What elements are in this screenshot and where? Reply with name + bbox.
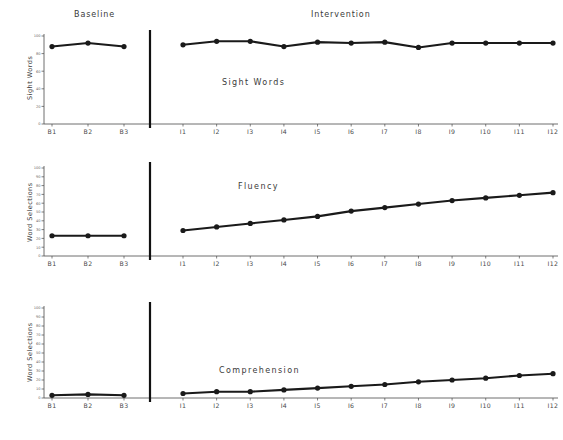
- svg-text:I11: I11: [514, 128, 525, 135]
- data-point: [49, 393, 54, 398]
- svg-text:I4: I4: [281, 260, 288, 267]
- data-point: [449, 198, 454, 203]
- y-axis-title-comprehension: Word Selections: [26, 322, 34, 382]
- data-point: [248, 221, 253, 226]
- data-point: [349, 209, 354, 214]
- data-point: [416, 45, 421, 50]
- data-point: [349, 384, 354, 389]
- svg-text:I2: I2: [213, 260, 220, 267]
- svg-text:40: 40: [36, 219, 41, 223]
- data-point: [416, 379, 421, 384]
- svg-text:I11: I11: [514, 260, 525, 267]
- svg-text:0: 0: [38, 396, 41, 400]
- svg-text:0: 0: [38, 254, 41, 258]
- data-point: [180, 391, 185, 396]
- data-point: [248, 39, 253, 44]
- data-point: [382, 382, 387, 387]
- data-point: [49, 233, 54, 238]
- svg-text:20: 20: [36, 378, 41, 382]
- data-point: [214, 39, 219, 44]
- data-point: [550, 190, 555, 195]
- svg-text:60: 60: [36, 202, 41, 206]
- svg-text:80: 80: [36, 324, 41, 328]
- svg-text:30: 30: [36, 369, 41, 373]
- svg-text:60: 60: [36, 342, 41, 346]
- svg-text:70: 70: [36, 333, 41, 337]
- data-point: [180, 42, 185, 47]
- svg-text:I12: I12: [548, 260, 559, 267]
- svg-text:90: 90: [36, 315, 41, 319]
- svg-text:I10: I10: [480, 128, 491, 135]
- chart-fluency: 0102030405060708090100B1B2B3I1I2I3I4I5I6…: [0, 160, 563, 275]
- data-point: [248, 389, 253, 394]
- svg-text:I6: I6: [348, 402, 355, 409]
- y-axis-title-sight-words: Sight Words: [26, 56, 34, 100]
- data-point: [281, 44, 286, 49]
- svg-text:B3: B3: [120, 128, 129, 135]
- svg-text:I5: I5: [314, 260, 321, 267]
- svg-text:I10: I10: [480, 260, 491, 267]
- data-point: [85, 233, 90, 238]
- svg-text:I2: I2: [213, 128, 220, 135]
- svg-text:10: 10: [36, 246, 41, 250]
- svg-text:I11: I11: [514, 402, 525, 409]
- svg-text:I3: I3: [247, 402, 254, 409]
- svg-text:60: 60: [36, 70, 41, 74]
- svg-text:I1: I1: [180, 128, 187, 135]
- data-point: [85, 40, 90, 45]
- data-point: [49, 44, 54, 49]
- data-point: [121, 393, 126, 398]
- svg-text:70: 70: [36, 193, 41, 197]
- plot-title-fluency: Fluency: [238, 182, 279, 191]
- svg-text:I7: I7: [382, 260, 389, 267]
- svg-text:B2: B2: [84, 260, 93, 267]
- svg-text:I5: I5: [314, 128, 321, 135]
- svg-text:30: 30: [36, 228, 41, 232]
- svg-text:I6: I6: [348, 260, 355, 267]
- data-point: [281, 387, 286, 392]
- data-point: [180, 228, 185, 233]
- data-point: [483, 376, 488, 381]
- svg-text:I9: I9: [449, 128, 456, 135]
- svg-text:I4: I4: [281, 128, 288, 135]
- svg-text:100: 100: [34, 306, 42, 310]
- data-point: [416, 201, 421, 206]
- svg-text:80: 80: [36, 184, 41, 188]
- svg-text:I12: I12: [548, 402, 559, 409]
- plot-title-comprehension: Comprehension: [219, 366, 300, 375]
- y-axis-title-fluency: Word Selections: [26, 182, 34, 242]
- svg-text:I3: I3: [247, 128, 254, 135]
- data-point: [449, 40, 454, 45]
- svg-text:I1: I1: [180, 402, 187, 409]
- svg-text:I1: I1: [180, 260, 187, 267]
- svg-text:I7: I7: [382, 402, 389, 409]
- panel-fluency: 0102030405060708090100B1B2B3I1I2I3I4I5I6…: [0, 160, 563, 275]
- svg-text:B3: B3: [120, 260, 129, 267]
- data-point: [315, 386, 320, 391]
- svg-text:90: 90: [36, 175, 41, 179]
- svg-text:80: 80: [36, 52, 41, 56]
- data-point: [517, 40, 522, 45]
- svg-text:20: 20: [36, 237, 41, 241]
- svg-text:I12: I12: [548, 128, 559, 135]
- svg-text:10: 10: [36, 387, 41, 391]
- data-point: [449, 377, 454, 382]
- data-point: [517, 193, 522, 198]
- panel-comprehension: 0102030405060708090100B1B2B3I1I2I3I4I5I6…: [0, 300, 563, 420]
- chart-comprehension: 0102030405060708090100B1B2B3I1I2I3I4I5I6…: [0, 300, 563, 420]
- series-line-intervention: [183, 41, 553, 47]
- svg-text:50: 50: [36, 351, 41, 355]
- svg-text:B2: B2: [84, 402, 93, 409]
- data-point: [121, 44, 126, 49]
- plot-title-sight-words: Sight Words: [222, 78, 285, 87]
- svg-text:I5: I5: [314, 402, 321, 409]
- svg-text:40: 40: [36, 87, 41, 91]
- series-line-intervention: [183, 374, 553, 394]
- data-point: [315, 40, 320, 45]
- data-point: [214, 389, 219, 394]
- svg-text:50: 50: [36, 210, 41, 214]
- data-point: [349, 40, 354, 45]
- data-point: [382, 40, 387, 45]
- svg-text:20: 20: [36, 105, 41, 109]
- svg-text:I8: I8: [415, 260, 422, 267]
